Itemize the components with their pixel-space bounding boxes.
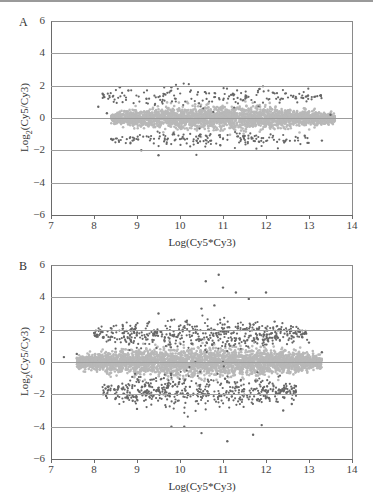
x-axis-title: Log(Cy5*Cy3) — [152, 480, 252, 492]
y-tick-label: 6 — [25, 258, 45, 270]
chart-panel-b: B Log2(Cy5/Cy3) Log(Cy5*Cy3) 6420−2−4−67… — [0, 0, 373, 503]
y-tick-label: 0 — [25, 355, 45, 367]
gridline — [51, 394, 352, 395]
series-up-regulated — [93, 315, 308, 354]
x-tick-label: 11 — [213, 463, 233, 475]
x-tick-label: 12 — [256, 463, 276, 475]
y-tick-label: 4 — [25, 290, 45, 302]
gridline — [51, 330, 352, 331]
x-tick-label: 13 — [299, 463, 319, 475]
gridline — [51, 427, 352, 428]
x-tick-label: 9 — [127, 463, 147, 475]
y-tick-label: −2 — [25, 387, 45, 399]
y-tick-label: −4 — [25, 420, 45, 432]
gridline — [51, 362, 352, 363]
x-tick-label: 7 — [41, 463, 61, 475]
x-tick-label: 8 — [84, 463, 104, 475]
y-tick-label: 2 — [25, 323, 45, 335]
x-tick-label: 10 — [170, 463, 190, 475]
gridline — [51, 297, 352, 298]
x-tick-label: 14 — [342, 463, 362, 475]
